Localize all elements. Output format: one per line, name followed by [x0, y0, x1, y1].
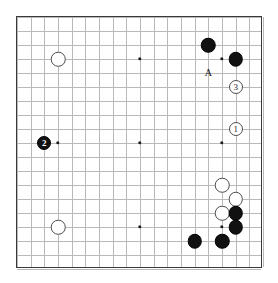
- grid-line-vertical: [72, 17, 73, 267]
- numbered-stone[interactable]: 1: [229, 122, 243, 136]
- grid-line-vertical: [181, 17, 182, 267]
- grid-line-vertical: [31, 17, 32, 267]
- grid-line-horizontal: [17, 73, 261, 74]
- stone[interactable]: [228, 192, 243, 207]
- stone[interactable]: [228, 220, 243, 235]
- stone[interactable]: [51, 220, 66, 235]
- grid-line-vertical: [113, 17, 114, 267]
- grid-line-vertical: [263, 17, 264, 267]
- grid-line-horizontal: [17, 255, 261, 256]
- grid-line-vertical: [167, 17, 168, 267]
- grid-line-horizontal: [17, 171, 261, 172]
- go-board[interactable]: 312 A: [16, 16, 262, 268]
- grid-line-vertical: [126, 17, 127, 267]
- stone-move-number: 1: [230, 123, 242, 135]
- grid-line-horizontal: [17, 17, 261, 18]
- stone[interactable]: [215, 206, 230, 221]
- numbered-stone[interactable]: 3: [229, 80, 243, 94]
- stone[interactable]: [51, 52, 66, 67]
- grid-line-vertical: [208, 17, 209, 267]
- star-point: [220, 141, 223, 144]
- go-diagram: 312 A: [0, 0, 278, 283]
- stone[interactable]: [215, 178, 230, 193]
- numbered-stone[interactable]: 2: [37, 136, 51, 150]
- grid-line-horizontal: [17, 129, 261, 130]
- star-point: [56, 141, 59, 144]
- stone[interactable]: [215, 234, 230, 249]
- grid-line-horizontal: [17, 101, 261, 102]
- stone[interactable]: [187, 234, 202, 249]
- grid-line-vertical: [17, 17, 18, 267]
- point-label: A: [205, 68, 212, 78]
- grid-line-vertical: [99, 17, 100, 267]
- grid-line-horizontal: [17, 31, 261, 32]
- star-point: [220, 57, 223, 60]
- grid-line-vertical: [154, 17, 155, 267]
- stone[interactable]: [228, 52, 243, 67]
- grid-line-horizontal: [17, 87, 261, 88]
- grid-line-vertical: [249, 17, 250, 267]
- grid-line-vertical: [195, 17, 196, 267]
- grid-line-vertical: [85, 17, 86, 267]
- stone[interactable]: [228, 206, 243, 221]
- stone[interactable]: [201, 38, 216, 53]
- star-point: [138, 141, 141, 144]
- grid-line-horizontal: [17, 45, 261, 46]
- grid-line-horizontal: [17, 199, 261, 200]
- stone-move-number: 3: [230, 81, 242, 93]
- grid-line-horizontal: [17, 269, 261, 270]
- star-point: [138, 225, 141, 228]
- stone-move-number: 2: [38, 137, 50, 149]
- star-point: [138, 57, 141, 60]
- grid-line-horizontal: [17, 157, 261, 158]
- star-point: [220, 225, 223, 228]
- grid-line-horizontal: [17, 115, 261, 116]
